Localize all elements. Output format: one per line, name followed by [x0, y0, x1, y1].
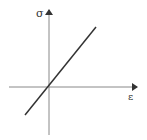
stress-strain-diagram: σ ε — [0, 0, 147, 140]
linear-line — [25, 27, 96, 115]
x-axis-label: ε — [128, 91, 133, 102]
y-axis-label: σ — [36, 7, 44, 20]
